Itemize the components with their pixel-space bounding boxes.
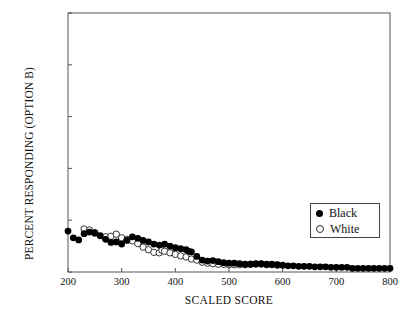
x-tick-label: 300 [102,276,142,287]
data-point-black [188,248,195,255]
legend-item-white: White [316,221,359,237]
chart-figure: PERCENT RESPONDING (OPTION B) 0204060801… [0,0,416,327]
x-tick-label: 700 [316,276,356,287]
x-tick-label: 400 [155,276,195,287]
filled-circle-icon [316,210,323,217]
x-tick-label: 200 [48,276,88,287]
legend-item-black: Black [316,205,357,221]
data-point-black [65,228,72,235]
x-axis-label: SCALED SCORE [68,294,390,306]
legend-label-white: White [330,223,359,235]
chart-legend: Black White [310,203,380,238]
x-tick-label: 600 [263,276,303,287]
data-point-black [387,265,394,272]
open-circle-icon [316,225,324,233]
data-point-black [75,236,82,243]
x-tick-label: 500 [209,276,249,287]
legend-label-black: Black [329,207,357,219]
x-tick-label: 800 [370,276,410,287]
